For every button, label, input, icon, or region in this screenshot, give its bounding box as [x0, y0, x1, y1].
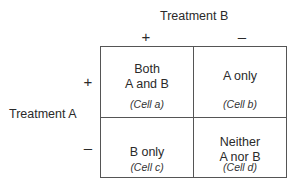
cell-b-line1: A only	[194, 69, 286, 84]
cell-a-line1: Both	[101, 62, 193, 77]
column-header-treatment-b: Treatment B	[160, 9, 228, 23]
cell-c-line1: B only	[101, 145, 193, 160]
row-header-treatment-a: Treatment A	[9, 107, 77, 121]
cell-c-label: (Cell c)	[101, 161, 193, 173]
contingency-grid: Both A and B (Cell a) A only (Cell b) B …	[100, 46, 287, 178]
row-sign-minus: –	[78, 140, 98, 155]
cell-a-label: (Cell a)	[101, 98, 193, 110]
cell-d-line1: Neither	[194, 135, 286, 150]
cell-d-label: (Cell d)	[194, 161, 286, 173]
column-sign-plus: +	[136, 29, 156, 44]
cell-b-label: (Cell b)	[194, 98, 286, 110]
column-sign-minus: –	[232, 29, 252, 44]
cell-a: Both A and B	[101, 62, 193, 92]
cell-c: B only	[101, 145, 193, 160]
grid-horizontal-divider	[101, 117, 286, 118]
row-sign-plus: +	[78, 74, 98, 89]
cell-a-line2: A and B	[101, 77, 193, 92]
cell-b: A only	[194, 69, 286, 84]
